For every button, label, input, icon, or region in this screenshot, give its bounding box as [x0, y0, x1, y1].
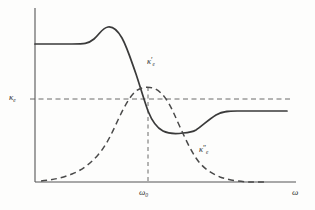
kappa-imag-curve-label: κ″e: [199, 145, 208, 155]
x-axis-omega-zero-label: ω0: [139, 188, 148, 198]
kappa-real-subscript: e: [153, 61, 155, 67]
x-axis-variable-label: ω: [292, 188, 298, 197]
kappa-e-subscript: e: [13, 97, 15, 103]
y-axis-kappa-e-label: κe: [9, 93, 16, 103]
dispersion-absorption-figure: κe κ′e κ″e ω0 ω: [0, 0, 315, 210]
omega-zero-subscript: 0: [145, 192, 148, 198]
kappa-imag-curve: [41, 87, 268, 182]
kappa-real-curve: [35, 27, 287, 134]
plot-canvas: [0, 0, 315, 210]
kappa-imag-subscript: e: [206, 149, 208, 155]
kappa-real-curve-label: κ′e: [147, 57, 155, 67]
